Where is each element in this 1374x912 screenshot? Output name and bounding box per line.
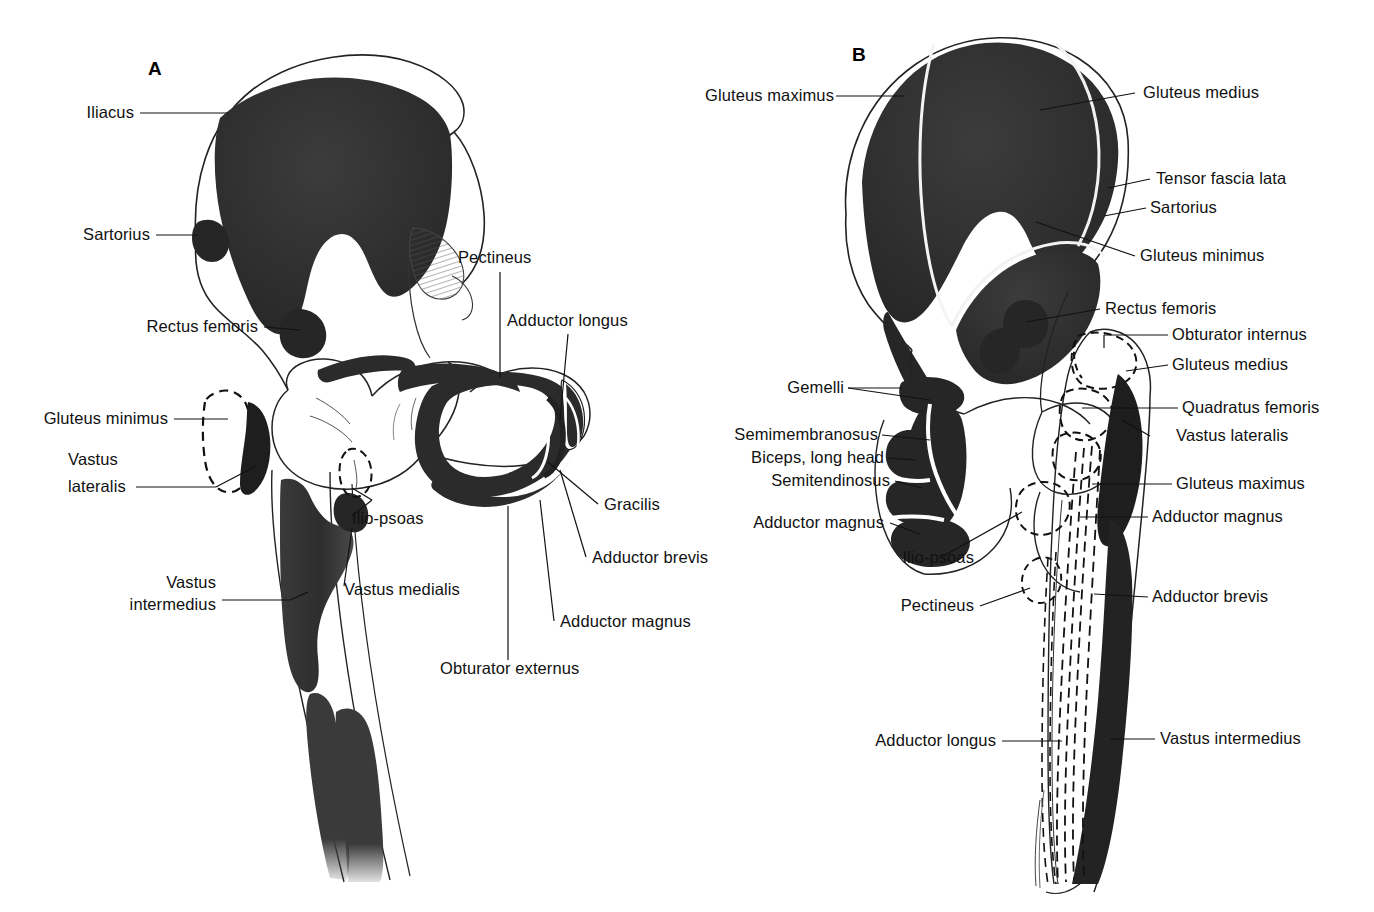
label-vastus-intermedius-a-line1: Vastus xyxy=(0,573,216,592)
label-vastus-intermedius-a-line2: intermedius xyxy=(0,595,216,614)
label-iliacus: Iliacus xyxy=(0,103,134,122)
label-gluteus-maximus-b-right: Gluteus maximus xyxy=(1176,474,1305,493)
label-semitendinosus-b: Semitendinosus xyxy=(640,471,890,490)
label-obturator-internus-b: Obturator internus xyxy=(1172,325,1307,344)
label-adductor-brevis-a: Adductor brevis xyxy=(592,548,708,567)
label-ilio-psoas-b: Ilio-psoas xyxy=(760,548,974,567)
label-gluteus-maximus-b-left: Gluteus maximus xyxy=(600,86,834,105)
label-gluteus-medius-b-top: Gluteus medius xyxy=(1143,83,1259,102)
label-adductor-magnus-b-left: Adductor magnus xyxy=(640,513,884,532)
label-vastus-lateralis-a-line1: Vastus xyxy=(68,450,118,469)
label-adductor-longus-a: Adductor longus xyxy=(507,311,628,330)
label-vastus-lateralis-a-line2: lateralis xyxy=(68,477,126,496)
label-obturator-externus-a: Obturator externus xyxy=(440,659,579,678)
label-sartorius-b: Sartorius xyxy=(1150,198,1217,217)
label-rectus-femoris-b: Rectus femoris xyxy=(1105,299,1216,318)
panel-b-letter: B xyxy=(852,44,866,66)
label-sartorius-a: Sartorius xyxy=(0,225,150,244)
label-gluteus-minimus-a: Gluteus minimus xyxy=(0,409,168,428)
label-pectineus-b: Pectineus xyxy=(800,596,974,615)
label-quadratus-femoris-b: Quadratus femoris xyxy=(1182,398,1319,417)
label-adductor-magnus-a: Adductor magnus xyxy=(560,612,691,631)
label-biceps-long-head-b: Biceps, long head xyxy=(640,448,884,467)
label-gluteus-minimus-b: Gluteus minimus xyxy=(1140,246,1264,265)
label-gracilis-a: Gracilis xyxy=(604,495,660,514)
label-tensor-fascia-lata-b: Tensor fascia lata xyxy=(1156,169,1286,188)
label-semimembranosus-b: Semimembranosus xyxy=(640,425,878,444)
label-vastus-medialis-a: Vastus medialis xyxy=(344,580,460,599)
label-ilio-psoas-a: Ilio-psoas xyxy=(352,509,424,528)
label-adductor-magnus-b-right: Adductor magnus xyxy=(1152,507,1283,526)
label-vastus-intermedius-b: Vastus intermedius xyxy=(1160,729,1301,748)
label-adductor-longus-b: Adductor longus xyxy=(800,731,996,750)
label-gemelli-b: Gemelli xyxy=(640,378,844,397)
label-pectineus-a: Pectineus xyxy=(458,248,531,267)
label-vastus-lateralis-b: Vastus lateralis xyxy=(1176,426,1288,445)
panel-a-letter: A xyxy=(148,58,162,80)
label-adductor-brevis-b: Adductor brevis xyxy=(1152,587,1268,606)
label-rectus-femoris-a: Rectus femoris xyxy=(0,317,258,336)
label-gluteus-medius-b-2: Gluteus medius xyxy=(1172,355,1288,374)
